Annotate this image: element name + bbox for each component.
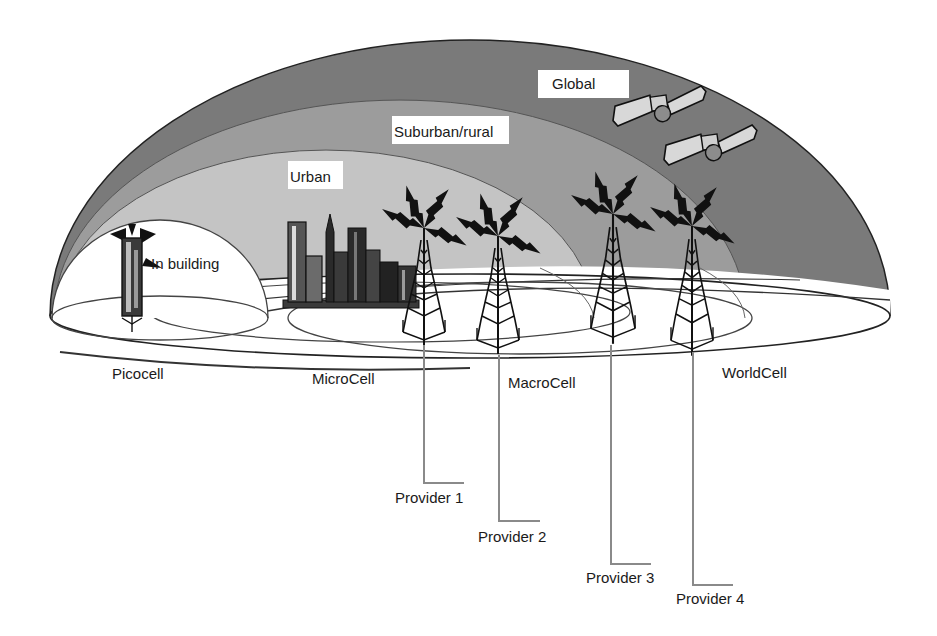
worldcell-label: WorldCell <box>722 364 787 381</box>
provider3-label: Provider 3 <box>586 569 654 586</box>
provider1-connector <box>424 345 464 483</box>
suburban-label: Suburban/rural <box>394 123 493 140</box>
global-label: Global <box>552 75 595 92</box>
microcell-label: MicroCell <box>312 370 375 387</box>
provider4-connector <box>693 352 733 585</box>
provider1-label: Provider 1 <box>395 489 463 506</box>
urban-label: Urban <box>290 168 331 185</box>
picocell-label: Picocell <box>112 365 164 382</box>
provider4-label: Provider 4 <box>676 590 744 607</box>
provider3-connector <box>611 345 651 564</box>
cellular-coverage-diagram: Global Suburban/rural Urban In building … <box>0 0 937 636</box>
provider2-label: Provider 2 <box>478 528 546 545</box>
macrocell-label: MacroCell <box>508 374 576 391</box>
in-building-label: In building <box>151 255 219 272</box>
